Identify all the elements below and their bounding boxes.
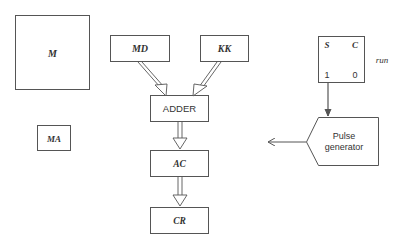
ac-block: AC	[151, 151, 209, 177]
ma-block: MA	[38, 126, 71, 151]
ac-label: AC	[172, 159, 186, 169]
run-flipflop: S C 1 0	[319, 37, 365, 83]
kk-label: KK	[217, 43, 233, 54]
flipflop-set-label: S	[324, 40, 329, 50]
flipflop-clear-value: 0	[352, 70, 357, 80]
kk-to-adder-arrow	[193, 62, 221, 96]
pulse-generator: Pulse generator	[307, 118, 379, 166]
adder-label: ADDER	[163, 103, 196, 114]
cr-block: CR	[151, 208, 209, 234]
memory-block: M	[16, 16, 90, 90]
adder-block: ADDER	[151, 96, 209, 122]
pulse-generator-line2: generator	[325, 142, 364, 152]
register-diagram: M MD KK ADDER MA AC CR	[0, 0, 401, 246]
run-label: run	[376, 55, 389, 65]
pulse-generator-line1: Pulse	[333, 131, 356, 141]
kk-block: KK	[201, 36, 249, 62]
md-to-adder-arrow	[138, 62, 167, 96]
flipflop-set-value: 1	[324, 70, 329, 80]
memory-label: M	[47, 48, 58, 59]
md-block: MD	[111, 36, 170, 62]
md-label: MD	[131, 43, 148, 54]
adder-to-ac-arrow	[173, 121, 187, 149]
ac-to-cr-arrow	[173, 176, 187, 206]
cr-label: CR	[173, 216, 186, 226]
flipflop-clear-label: C	[352, 40, 359, 50]
ma-label: MA	[46, 134, 61, 144]
